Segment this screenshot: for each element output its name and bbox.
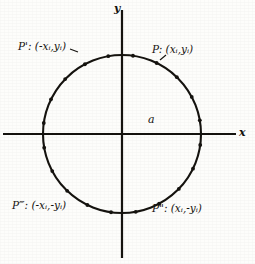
circle-point-marker [83, 62, 87, 66]
circle-point-marker [134, 210, 138, 214]
circle-point-marker [42, 146, 46, 150]
point-label-p-prime: P': (-xᵢ,yᵢ) [18, 41, 66, 52]
x-axis-label: x [239, 127, 246, 138]
circle-point-marker [109, 210, 113, 214]
leader-p [160, 55, 166, 60]
circle-point-marker [190, 95, 194, 99]
circle-point-marker [198, 118, 202, 122]
circle-point-marker [177, 187, 181, 191]
circle-point-marker [63, 77, 67, 81]
figure-canvas: P': (-xᵢ,yᵢ) P: (xᵢ,yᵢ) P‴: (-xᵢ,-yᵢ) P"… [0, 0, 255, 264]
circle-point-marker [42, 121, 46, 125]
circle-point-marker [65, 189, 69, 193]
y-axis-label: y [114, 3, 120, 14]
point-label-p-double-prime: P": (xᵢ,-yᵢ) [152, 203, 202, 214]
circle-point-marker [85, 203, 89, 207]
circle-point-marker [155, 61, 159, 65]
circle-point-marker [175, 75, 179, 79]
radius-label: a [148, 114, 155, 125]
point-label-p: P: (xᵢ,yᵢ) [152, 44, 193, 55]
circle-point-marker [106, 54, 110, 58]
circle-point-marker [50, 169, 54, 173]
circle-point-marker [198, 143, 202, 147]
leader-p-prime [70, 49, 78, 52]
circle-point-marker [191, 167, 195, 171]
point-label-p-triple-prime: P‴: (-xᵢ,-yᵢ) [12, 200, 66, 211]
circle-point-marker [131, 54, 135, 58]
circle-point-marker [49, 97, 53, 101]
